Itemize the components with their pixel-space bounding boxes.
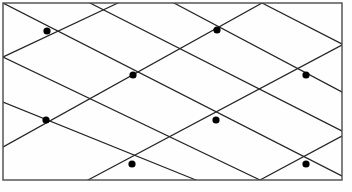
lattice-diagram xyxy=(0,0,352,192)
lattice-node xyxy=(213,26,220,33)
lattice-node xyxy=(302,71,309,78)
lattice-node xyxy=(212,116,219,123)
lattice-node xyxy=(128,160,135,167)
lattice-node xyxy=(42,116,49,123)
figure-container xyxy=(0,0,352,192)
lattice-node xyxy=(129,71,136,78)
lattice-node xyxy=(302,160,309,167)
lattice-node xyxy=(43,27,50,34)
